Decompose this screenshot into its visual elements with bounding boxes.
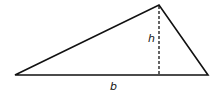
base-label: b [110, 80, 117, 93]
triangle [15, 5, 208, 75]
triangle-diagram: h b [0, 0, 217, 94]
height-label: h [148, 32, 155, 45]
